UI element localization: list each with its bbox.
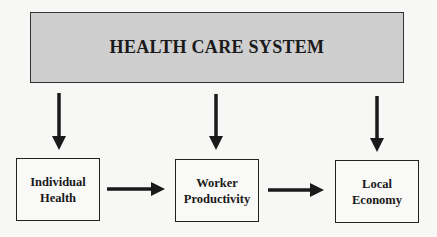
individual-health-box: Individual Health <box>16 158 100 221</box>
individual-health-line1: Individual <box>30 174 86 190</box>
local-economy-line2: Economy <box>352 192 402 208</box>
worker-productivity-line2: Productivity <box>184 191 250 207</box>
individual-health-line2: Health <box>40 190 76 206</box>
local-economy-line1: Local <box>362 176 392 192</box>
worker-productivity-box: Worker Productivity <box>175 159 259 222</box>
worker-productivity-line1: Worker <box>196 175 238 191</box>
local-economy-box: Local Economy <box>335 160 419 223</box>
